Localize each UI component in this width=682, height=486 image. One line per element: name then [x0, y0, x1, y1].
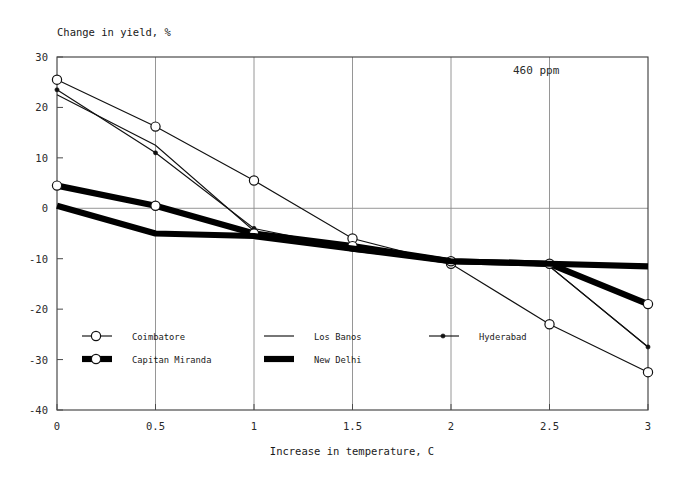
legend-item-coimbatore[interactable]: Coimbatore: [82, 331, 185, 341]
y-tick-label: 10: [35, 152, 48, 164]
x-tick-label: 0: [54, 420, 60, 432]
data-point-marker: [153, 151, 157, 155]
data-point-marker: [545, 320, 554, 329]
y-tick-label: -10: [29, 253, 48, 265]
legend-label: Hyderabad: [479, 332, 527, 342]
x-tick-label: 2.5: [540, 420, 559, 432]
legend-marker-icon: [441, 334, 445, 338]
x-tick-label: 1.5: [343, 420, 362, 432]
x-tick-label: 2: [448, 420, 454, 432]
data-point-marker: [643, 368, 652, 377]
legend-item-hyderabad[interactable]: Hyderabad: [429, 332, 527, 342]
data-point-marker: [52, 75, 61, 84]
data-point-marker: [646, 345, 650, 349]
chart-container: 3020100-10-20-30-4000.511.522.53 Coimbat…: [0, 0, 682, 486]
legend-marker-icon: [91, 331, 100, 340]
legend-label: Capitan Miranda: [132, 355, 211, 365]
data-point-marker: [249, 176, 258, 185]
legend-item-capitan-miranda[interactable]: Capitan Miranda: [82, 354, 211, 364]
data-point-marker: [151, 201, 160, 210]
y-tick-label: -30: [29, 354, 48, 366]
legend-label: Coimbatore: [132, 332, 185, 342]
y-tick-label: 0: [42, 202, 48, 214]
y-axis-title: Change in yield, %: [57, 26, 171, 38]
y-tick-label: 20: [35, 101, 48, 113]
x-tick-label: 1: [251, 420, 257, 432]
chart-legend: CoimbatoreCapitan MirandaLos BanosNew De…: [82, 331, 527, 364]
yield-temperature-line-chart: 3020100-10-20-30-4000.511.522.53 Coimbat…: [0, 0, 682, 486]
legend-item-los-banos[interactable]: Los Banos: [264, 332, 362, 342]
x-tick-label: 3: [645, 420, 651, 432]
legend-item-new-delhi[interactable]: New Delhi: [264, 355, 362, 365]
x-tick-label: 0.5: [146, 420, 165, 432]
legend-marker-icon: [91, 354, 100, 363]
data-point-marker: [151, 122, 160, 131]
y-tick-label: -20: [29, 303, 48, 315]
data-point-marker: [55, 88, 59, 92]
x-axis-title: Increase in temperature, C: [270, 445, 434, 457]
data-point-marker: [52, 181, 61, 190]
legend-label: New Delhi: [314, 355, 362, 365]
legend-label: Los Banos: [314, 332, 362, 342]
y-tick-label: -40: [29, 404, 48, 416]
data-point-marker: [643, 300, 652, 309]
y-tick-label: 30: [35, 51, 48, 63]
co2-concentration-annotation: 460 ppm: [513, 64, 560, 77]
